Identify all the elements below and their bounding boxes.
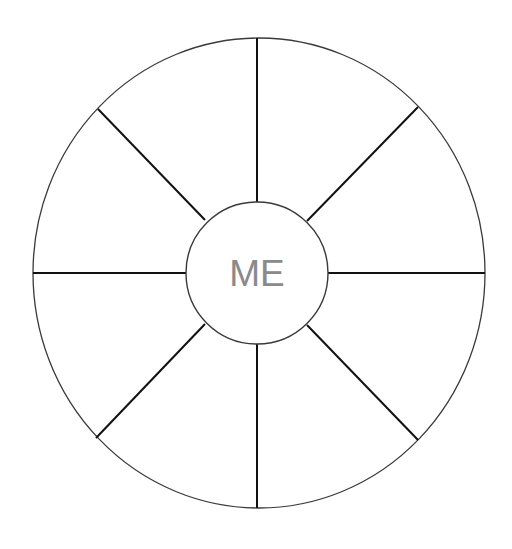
spoke-bottom-left [96,324,205,438]
me-wheel-diagram: ME [0,0,512,549]
center-label: ME [229,253,285,294]
spoke-top-right [307,107,418,221]
spoke-top-left [98,109,205,220]
spoke-bottom-right [307,325,418,440]
